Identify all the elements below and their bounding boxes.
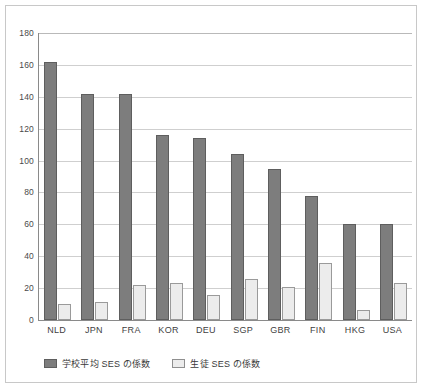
bar-series-0 xyxy=(44,62,57,320)
y-axis-tick-label: 180 xyxy=(19,28,34,38)
bar-series-1 xyxy=(282,287,295,320)
x-axis-tick-label: KOR xyxy=(158,325,178,335)
bar-group xyxy=(188,33,225,320)
bar-group xyxy=(151,33,188,320)
y-axis-tick-label: 160 xyxy=(19,60,34,70)
legend-swatch-icon-series-0 xyxy=(44,359,57,368)
bar-series-0 xyxy=(193,138,206,320)
legend-label-series-1: 生徒 SES の係数 xyxy=(190,357,260,370)
x-axis-tick-label: HKG xyxy=(345,325,365,335)
bar-series-1 xyxy=(170,283,183,320)
y-axis-tick-label: 100 xyxy=(19,156,34,166)
y-axis-tick-label: 40 xyxy=(24,251,34,261)
y-axis-tick-label: 20 xyxy=(24,283,34,293)
plot-area: 020406080100120140160180 xyxy=(38,33,412,321)
bar-series-1 xyxy=(394,283,407,320)
y-axis-tick-label: 140 xyxy=(19,92,34,102)
bar-series-1 xyxy=(357,310,370,320)
x-axis-tick-label: SGP xyxy=(233,325,253,335)
bar-series-1 xyxy=(133,285,146,320)
legend-label-series-0: 学校平均 SES の係数 xyxy=(62,357,150,370)
x-axis-tick-label: FRA xyxy=(122,325,141,335)
bar-series-1 xyxy=(207,295,220,321)
bar-series-0 xyxy=(231,154,244,320)
bar-chart-figure: 020406080100120140160180 NLDJPNFRAKORDEU… xyxy=(0,0,422,388)
bars-layer xyxy=(39,33,412,320)
bar-series-0 xyxy=(343,224,356,320)
bar-group xyxy=(114,33,151,320)
legend-item-school-mean-ses[interactable]: 学校平均 SES の係数 xyxy=(44,357,150,370)
bar-series-0 xyxy=(305,196,318,320)
x-axis-tick-label: USA xyxy=(383,325,402,335)
y-axis-tick-label: 80 xyxy=(24,187,34,197)
bar-series-0 xyxy=(119,94,132,320)
legend-item-student-ses[interactable]: 生徒 SES の係数 xyxy=(172,357,260,370)
y-axis-tick-label: 0 xyxy=(29,315,34,325)
legend-swatch-icon-series-1 xyxy=(172,359,185,368)
x-axis-tick-label: NLD xyxy=(47,325,66,335)
bar-group xyxy=(375,33,412,320)
bar-series-1 xyxy=(58,304,71,320)
bar-series-0 xyxy=(81,94,94,320)
bar-series-1 xyxy=(95,302,108,320)
bar-group xyxy=(39,33,76,320)
x-axis-tick-labels: NLDJPNFRAKORDEUSGPGBRFINHKGUSA xyxy=(38,323,412,341)
bar-group xyxy=(300,33,337,320)
y-axis-tick-label: 120 xyxy=(19,124,34,134)
bar-series-0 xyxy=(156,135,169,320)
x-axis-tick-label: FIN xyxy=(310,325,325,335)
x-axis-tick-label: GBR xyxy=(270,325,290,335)
chart-legend: 学校平均 SES の係数 生徒 SES の係数 xyxy=(44,357,260,370)
bar-series-1 xyxy=(245,279,258,320)
bar-group xyxy=(226,33,263,320)
bar-group xyxy=(76,33,113,320)
y-axis-tick-label: 60 xyxy=(24,219,34,229)
bar-group xyxy=(337,33,374,320)
bar-series-0 xyxy=(380,224,393,320)
x-axis-tick-label: JPN xyxy=(85,325,103,335)
bar-series-1 xyxy=(319,263,332,320)
bar-series-0 xyxy=(268,169,281,320)
x-axis-tick-label: DEU xyxy=(196,325,216,335)
bar-group xyxy=(263,33,300,320)
